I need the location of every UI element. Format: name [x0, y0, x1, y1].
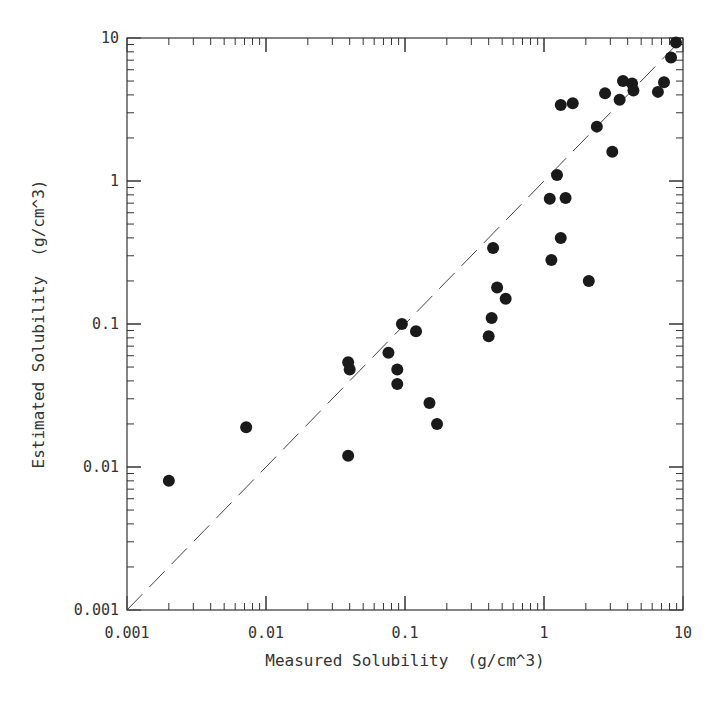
data-point [658, 76, 670, 88]
data-point [240, 421, 252, 433]
data-point [551, 169, 563, 181]
data-point [483, 330, 495, 342]
data-point [410, 325, 422, 337]
y-tick-label: 0.01 [83, 458, 119, 476]
x-tick-label: 1 [539, 624, 548, 642]
data-point [606, 146, 618, 158]
data-point [583, 275, 595, 287]
data-point [382, 347, 394, 359]
data-point [670, 37, 682, 49]
data-point [591, 121, 603, 133]
data-points [163, 37, 682, 487]
y-tick-label: 10 [101, 29, 119, 47]
data-point [391, 364, 403, 376]
y-tick-label: 0.001 [74, 601, 119, 619]
data-point [555, 232, 567, 244]
data-point [342, 450, 354, 462]
x-tick-label: 10 [674, 624, 692, 642]
data-point [431, 418, 443, 430]
data-point [487, 242, 499, 254]
data-point [344, 364, 356, 376]
x-tick-label: 0.1 [391, 624, 418, 642]
data-point [599, 87, 611, 99]
data-point [627, 84, 639, 96]
x-tick-labels: 0.0010.010.1110 [104, 624, 692, 642]
data-point [491, 281, 503, 293]
y-tick-labels: 0.0010.010.1110 [74, 29, 119, 619]
x-tick-label: 0.001 [104, 624, 149, 642]
data-point [544, 193, 556, 205]
data-point [391, 378, 403, 390]
data-point [396, 318, 408, 330]
y-tick-label: 1 [110, 172, 119, 190]
data-point [665, 52, 677, 64]
data-point [423, 397, 435, 409]
x-tick-label: 0.01 [248, 624, 284, 642]
data-point [555, 99, 567, 111]
data-point [545, 254, 557, 266]
data-point [163, 475, 175, 487]
data-point [500, 293, 512, 305]
y-tick-label: 0.1 [92, 315, 119, 333]
scatter-chart: 0.0010.010.1110 0.0010.010.1110 Measured… [0, 0, 718, 707]
x-axis-title: Measured Solubility (g/cm^3) [265, 651, 544, 670]
y-axis-title: Estimated Solubility (g/cm^3) [29, 180, 48, 469]
data-point [486, 312, 498, 324]
data-point [614, 94, 626, 106]
data-point [567, 97, 579, 109]
data-point [560, 192, 572, 204]
